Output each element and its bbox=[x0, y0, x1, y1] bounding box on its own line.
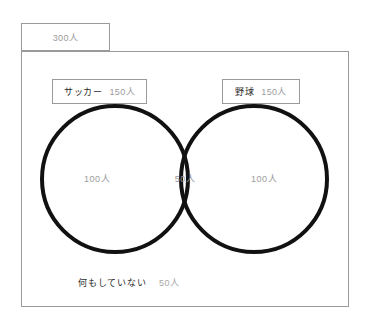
region-baseball-only-count: 100人 bbox=[237, 172, 291, 185]
set-soccer-count: 150人 bbox=[109, 85, 135, 98]
set-baseball-count: 150人 bbox=[261, 85, 287, 98]
callout-universe-total: 300人 bbox=[21, 23, 110, 51]
callout-set-soccer: サッカー 150人 bbox=[52, 79, 147, 104]
universe-total-count: 300人 bbox=[53, 31, 79, 44]
region-intersection-count: 50人 bbox=[158, 172, 212, 185]
neither-region-caption: 何もしていない 50人 bbox=[78, 272, 179, 290]
callout-set-baseball: 野球 150人 bbox=[222, 79, 300, 104]
set-soccer-name: サッカー bbox=[64, 85, 102, 98]
region-soccer-only-count: 100人 bbox=[70, 172, 124, 185]
set-baseball-name: 野球 bbox=[235, 85, 254, 98]
neither-label: 何もしていない bbox=[78, 278, 147, 288]
neither-count: 50人 bbox=[159, 278, 179, 288]
venn-diagram-figure: 300人 サッカー 150人 野球 150人 100人 50人 100人 何もし… bbox=[0, 0, 369, 332]
